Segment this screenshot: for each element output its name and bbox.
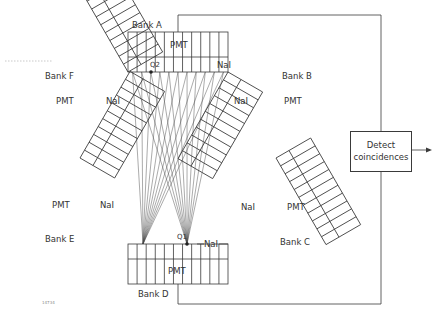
bank-d — [128, 244, 228, 284]
bank-e-nai: NaI — [100, 201, 114, 210]
q1-label: Q1 — [177, 234, 187, 241]
bank-c — [276, 138, 361, 245]
bank-b-label: Bank B — [282, 72, 312, 81]
figure-id: 14734 — [42, 301, 55, 305]
bank-b-nai: NaI — [234, 97, 248, 106]
bank-c-nai: NaI — [241, 203, 255, 212]
bank-d-pmt: PMT — [168, 267, 186, 276]
bank-d-label: Bank D — [138, 290, 169, 299]
bank-e-pmt: PMT — [52, 201, 70, 210]
detect-coincidences-box: Detect coincidences — [350, 131, 412, 172]
bank-c-pmt: PMT — [287, 203, 305, 212]
bank-f-nai: NaI — [106, 97, 120, 106]
bank-a-pmt: PMT — [170, 41, 188, 50]
bank-a-nai: NaI — [217, 61, 231, 70]
bank-a-label: Bank A — [132, 21, 162, 30]
detect-label-line2: coincidences — [353, 152, 408, 163]
q2-label: Q2 — [150, 62, 160, 69]
bank-e — [80, 71, 165, 178]
bank-c-label: Bank C — [280, 238, 310, 247]
bank-b-pmt: PMT — [284, 97, 302, 106]
arrowhead-icon — [426, 148, 432, 153]
q1-point — [185, 242, 189, 246]
ray-fan — [133, 72, 224, 244]
bank-f-pmt: PMT — [56, 97, 74, 106]
bank-a — [128, 32, 228, 72]
detect-label-line1: Detect — [367, 140, 395, 151]
bank-b — [178, 72, 263, 179]
bank-d-nai: NaI — [204, 240, 218, 249]
q2-point — [149, 70, 153, 74]
bank-e-label: Bank E — [45, 235, 74, 244]
bank-f-label: Bank F — [45, 72, 74, 81]
